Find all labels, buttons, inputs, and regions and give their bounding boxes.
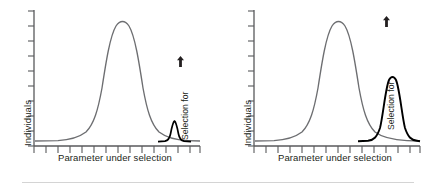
x-axis-label: Parameter under selection [30, 152, 200, 163]
figure-bottom-rule [22, 182, 414, 183]
selection-annotation-label: Selection for [386, 82, 396, 130]
y-axis-label: Individuals [22, 0, 36, 146]
y-axis-label: Individuals [242, 0, 256, 146]
right-plot-area [228, 0, 428, 170]
arrow-up-icon [382, 16, 391, 27]
weak-selection-panel: Individuals Parameter under selection Se… [8, 0, 208, 170]
x-axis-label: Parameter under selection [250, 152, 420, 163]
selection-annotation-label: Selection for [180, 92, 190, 140]
figure-container: Individuals Parameter under selection Se… [0, 0, 435, 190]
strong-selection-panel: Individuals Parameter under selection Se… [228, 0, 428, 170]
arrow-up-icon [176, 56, 185, 67]
left-plot-area [8, 0, 208, 170]
